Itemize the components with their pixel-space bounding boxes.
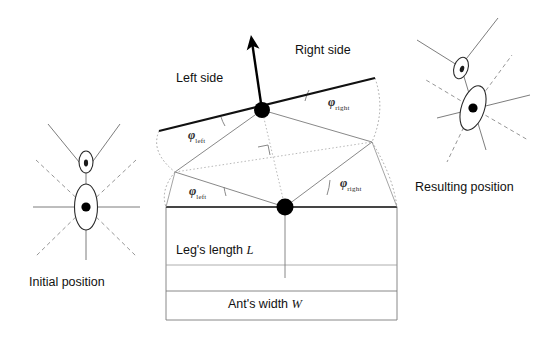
label-right-side: Right side: [295, 43, 351, 57]
lower-pivot-dot: [277, 199, 294, 216]
initial-position-ant: [33, 124, 140, 260]
caption-resulting-position: Resulting position: [415, 180, 514, 194]
heading-arrow: [252, 42, 262, 110]
label-leg-length: Leg's length L: [176, 243, 253, 258]
angle-label-phi-left-upper: φleft: [188, 128, 205, 145]
resulting-position-ant: [417, 18, 530, 162]
right-angle-marker: [258, 145, 270, 155]
angle-label-phi-right-upper: φright: [328, 95, 350, 112]
label-left-side: Left side: [176, 71, 223, 85]
angle-label-phi-left-lower: φleft: [189, 184, 206, 201]
figure-canvas: Left side Right side φleft φright φleft …: [0, 0, 553, 338]
label-ant-width: Ant's width W: [228, 297, 302, 312]
upper-pivot-dot: [254, 102, 270, 118]
caption-initial-position: Initial position: [29, 275, 105, 289]
angle-label-phi-right-lower: φright: [340, 176, 362, 193]
